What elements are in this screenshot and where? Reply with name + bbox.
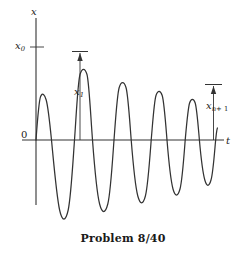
xn1-arrowhead-up [211, 86, 216, 94]
figure-container: x t 0 x0 x1 xn+ 1 Problem 8/40 [0, 0, 246, 260]
damped-curve [36, 69, 217, 219]
label-x0-subscript: 0 [21, 45, 25, 53]
label-x1: x1 [74, 87, 84, 99]
label-xn1: xn+ 1 [206, 101, 228, 113]
label-xn1-operator: + 1 [216, 105, 228, 113]
figure-caption: Problem 8/40 [0, 232, 246, 245]
damped-oscillation-plot [0, 0, 246, 260]
axis-label-x: x [31, 7, 37, 17]
origin-label: 0 [21, 130, 27, 140]
x1-arrowhead-up [77, 53, 82, 61]
label-x1-subscript: 1 [80, 91, 84, 99]
axis-label-t: t [226, 136, 230, 146]
label-x0: x0 [15, 41, 25, 53]
